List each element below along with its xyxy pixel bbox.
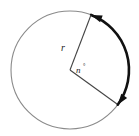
radius-lower-segment	[70, 70, 117, 104]
radius-label: r	[61, 42, 65, 53]
degree-symbol-icon: °	[83, 63, 86, 69]
angle-label: n	[76, 65, 81, 75]
geometry-figure-canvas: r n °	[0, 0, 139, 136]
highlighted-arc	[91, 15, 129, 105]
circle-arc-diagram: r n °	[0, 0, 139, 136]
radius-upper-segment	[70, 15, 91, 70]
arc-arrowhead-bottom	[118, 94, 127, 105]
